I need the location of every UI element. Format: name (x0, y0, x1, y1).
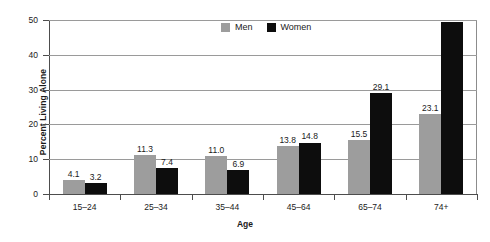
bar-value-label: 11.0 (196, 146, 236, 155)
y-tick-label: 0 (0, 190, 38, 199)
legend-swatch-men-icon (221, 23, 230, 32)
gridline (49, 159, 477, 160)
bar-men (348, 140, 370, 194)
gridline (49, 20, 477, 21)
bar-women (85, 183, 107, 194)
bar-men (419, 114, 441, 194)
bar-women (299, 143, 321, 195)
x-tick-label: 45–64 (259, 203, 339, 212)
bar-value-label: 6.9 (218, 160, 258, 169)
bar-women (156, 168, 178, 194)
gridline (49, 55, 477, 56)
bar-women (370, 93, 392, 194)
x-tick-label: 74+ (401, 203, 481, 212)
bar-chart: Percent Living Alone 01020304050 4.13.21… (0, 0, 490, 242)
legend-label-men: Men (235, 23, 253, 32)
y-tick-label: 40 (0, 51, 38, 60)
y-tick-label: 50 (0, 16, 38, 25)
x-tick-label: 65–74 (330, 203, 410, 212)
legend: Men Women (221, 23, 311, 32)
x-tick-mark (334, 195, 335, 200)
legend-swatch-women-icon (267, 23, 276, 32)
x-tick-mark (49, 195, 50, 200)
y-tick-mark (43, 55, 49, 56)
y-tick-label: 10 (0, 155, 38, 164)
bar-men (277, 146, 299, 194)
bar-value-label: 11.3 (125, 145, 165, 154)
x-tick-mark (477, 195, 478, 200)
x-tick-label: 25–34 (116, 203, 196, 212)
x-tick-mark (192, 195, 193, 200)
x-tick-mark (263, 195, 264, 200)
bar-value-label: 29.1 (361, 83, 401, 92)
bar-value-label: 3.2 (76, 173, 116, 182)
bar-value-label: 23.1 (410, 104, 450, 113)
x-tick-mark (120, 195, 121, 200)
x-tick-label: 35–44 (187, 203, 267, 212)
y-tick-label: 20 (0, 120, 38, 129)
x-tick-label: 15–24 (45, 203, 125, 212)
y-tick-mark (43, 90, 49, 91)
bar-value-label: 7.4 (147, 158, 187, 167)
y-tick-mark (43, 20, 49, 21)
y-tick-mark (43, 159, 49, 160)
y-tick-label: 30 (0, 86, 38, 95)
legend-item-women[interactable]: Women (267, 23, 312, 32)
plot-right-border (476, 20, 477, 194)
y-axis-title: Percent Living Alone (38, 22, 48, 202)
bar-value-label: 15.5 (339, 130, 379, 139)
gridline (49, 90, 477, 91)
x-axis-title: Age (0, 219, 490, 229)
legend-item-men[interactable]: Men (221, 23, 253, 32)
bar-value-label: 14.8 (290, 132, 330, 141)
x-tick-mark (406, 195, 407, 200)
bar-women (227, 170, 249, 194)
legend-label-women: Women (281, 23, 312, 32)
gridline (49, 124, 477, 125)
y-tick-mark (43, 124, 49, 125)
bar-men (63, 180, 85, 194)
